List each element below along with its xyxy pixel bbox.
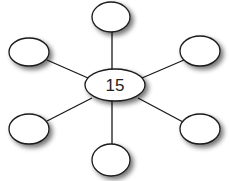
- satellite-node-bottom: [92, 144, 130, 176]
- connector-top-right: [142, 60, 184, 78]
- satellite-node-top: [92, 2, 130, 32]
- satellite-node-top-right: [180, 36, 220, 66]
- satellite-node-bottom-left: [9, 114, 49, 144]
- connector-bottom-left: [47, 98, 92, 121]
- center-node-label: 15: [85, 72, 145, 100]
- connector-top-left: [47, 60, 88, 78]
- satellite-node-top-left: [9, 38, 49, 66]
- connector-bottom-right: [138, 98, 183, 122]
- satellite-node-bottom-right: [180, 114, 220, 144]
